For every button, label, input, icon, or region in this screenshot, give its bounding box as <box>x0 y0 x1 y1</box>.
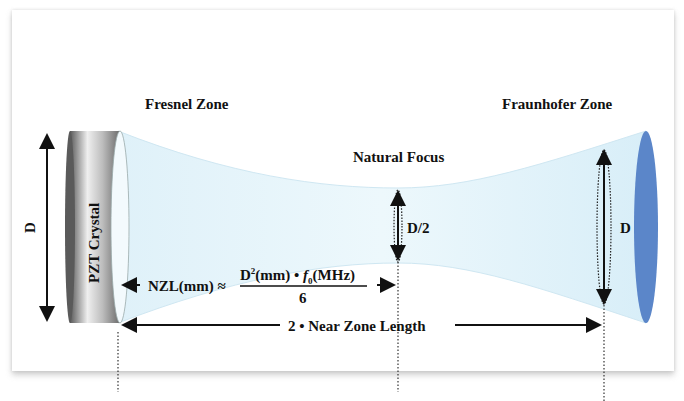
fraunhofer-zone-label: Fraunhofer Zone <box>502 96 612 112</box>
crystal-label: PZT Crystal <box>86 203 102 283</box>
diameter-label-far: D <box>620 220 631 236</box>
far-face <box>634 131 658 323</box>
natural-focus-label: Natural Focus <box>353 149 444 165</box>
diameter-label-left: D <box>22 222 38 233</box>
span-label: 2 • Near Zone Length <box>288 318 426 334</box>
pzt-crystal: PZT Crystal <box>65 131 129 323</box>
formula-denominator: 6 <box>299 290 307 306</box>
formula-lhs: NZL(mm) ≈ <box>148 278 226 295</box>
diameter-label-focus: D/2 <box>407 220 430 236</box>
formula-numerator: D2(mm) • f0(MHz) <box>240 266 355 286</box>
fresnel-zone-label: Fresnel Zone <box>145 96 229 112</box>
near-field-diagram: PZT Crystal D Fresnel Zone Fraunhofer Zo… <box>0 0 684 401</box>
